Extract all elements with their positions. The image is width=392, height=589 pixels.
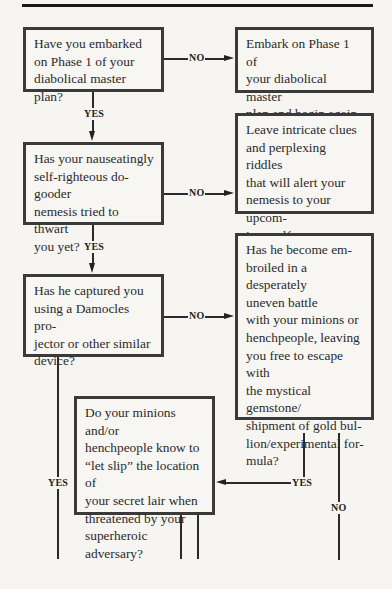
connector-q4-yes-horizontal bbox=[225, 482, 291, 484]
arrowhead-left-icon bbox=[216, 479, 226, 485]
top-rule bbox=[22, 4, 373, 7]
label-no-1: NO bbox=[188, 52, 205, 64]
label-yes-3: YES bbox=[47, 477, 69, 489]
label-yes-2: YES bbox=[83, 241, 105, 253]
label-no-3: NO bbox=[188, 310, 205, 322]
connector-q3-yes bbox=[57, 357, 59, 559]
label-no-2: NO bbox=[188, 187, 205, 199]
node-nemesis-thwart: Has your nauseatingly self-righteous do-… bbox=[23, 142, 164, 225]
connector-q4-yes-vertical bbox=[303, 433, 305, 483]
arrowhead-right-icon bbox=[224, 55, 234, 61]
arrowhead-down-icon bbox=[89, 263, 95, 273]
node-leave-clues: Leave intricate clues and perplexing rid… bbox=[235, 113, 374, 214]
label-yes-4: YES bbox=[291, 477, 313, 489]
connector-q5-exit-a bbox=[180, 515, 182, 559]
node-embarked-phase-1: Have you embarked on Phase 1 of your dia… bbox=[23, 27, 164, 92]
connector-q5-exit-b bbox=[197, 515, 199, 559]
node-let-slip-lair: Do your minions and/or henchpeople know … bbox=[74, 396, 215, 515]
label-yes-1: YES bbox=[83, 108, 105, 120]
arrowhead-right-icon bbox=[224, 190, 234, 196]
node-uneven-battle: Has he become em- broiled in a desperate… bbox=[235, 233, 374, 420]
node-damocles-projector: Has he captured you using a Damocles pro… bbox=[23, 274, 164, 357]
label-no-4: NO bbox=[330, 502, 347, 514]
arrowhead-down-icon bbox=[89, 131, 95, 141]
connector-q4-no bbox=[338, 433, 340, 560]
arrowhead-right-icon bbox=[224, 313, 234, 319]
node-embark-begin-again: Embark on Phase 1 of your diabolical mas… bbox=[235, 27, 374, 93]
